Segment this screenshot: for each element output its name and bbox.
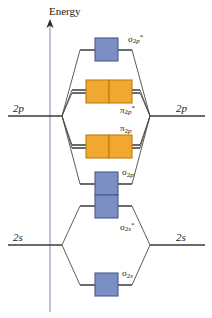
sigma-2p-label: σ2p	[122, 168, 134, 179]
sigma-2p-star-label: σ2p*	[128, 34, 143, 45]
pi-2p-box-right[interactable]	[109, 135, 132, 158]
sigma-2s-star-asterisk: *	[131, 221, 135, 229]
sigma-2s-star-label: σ2s*	[120, 222, 135, 233]
mo-diagram-canvas: Energy 2p 2p 2s 2s σ2p* π2p* π2p σ2p σ2s…	[0, 0, 212, 318]
mo-diagram-svg	[0, 0, 212, 318]
sigma-2p-star-asterisk: *	[140, 33, 144, 41]
pi-2p-star-box-right[interactable]	[109, 80, 132, 103]
pi-2p-star-asterisk: *	[132, 104, 136, 112]
sigma-2s-label: σ2s	[122, 269, 133, 280]
pi-2p-star-label: π2p*	[120, 105, 135, 116]
sigma-2p-subsym: p	[130, 171, 134, 179]
electron-boxes-sigma	[95, 38, 118, 296]
sigma-2s-subsym: s	[130, 272, 133, 280]
correlation-lines-2p	[62, 50, 150, 184]
energy-axis-label: Energy	[49, 6, 81, 17]
sigma-2s-box[interactable]	[95, 273, 118, 296]
pi-2p-box-left[interactable]	[86, 135, 109, 158]
left-2p-label: 2p	[13, 103, 24, 114]
sigma-2s-star-box[interactable]	[95, 195, 118, 218]
sigma-2p-star-box[interactable]	[95, 38, 118, 61]
left-2s-label: 2s	[13, 232, 23, 243]
pi-2p-star-box-left[interactable]	[86, 80, 109, 103]
sigma-2p-box[interactable]	[95, 172, 118, 195]
right-2p-label: 2p	[176, 103, 187, 114]
pi-2p-label: π2p	[120, 124, 132, 135]
energy-axis	[46, 19, 53, 312]
electron-boxes-pi	[86, 80, 132, 158]
pi-2p-subsym: p	[128, 127, 132, 135]
right-2s-label: 2s	[176, 232, 186, 243]
